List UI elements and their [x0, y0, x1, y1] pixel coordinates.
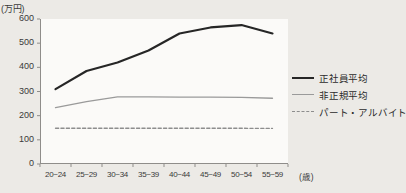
series-paths — [56, 25, 273, 128]
y-tick-label: 600 — [4, 14, 34, 23]
legend-label-nonregular: 非正規平均 — [319, 88, 368, 102]
y-axis-ticks — [37, 19, 40, 164]
legend-line-icon-regular — [292, 73, 314, 83]
series-line-正社員平均 — [56, 25, 273, 89]
y-tick-label: 200 — [4, 111, 34, 120]
y-tick-label: 400 — [4, 62, 34, 71]
x-axis-unit-label: (歳) — [299, 170, 314, 182]
x-axis-ticks — [40, 164, 288, 167]
chart-figure: (万円) 0100200300400500600 20~2425~2930~34… — [0, 0, 406, 193]
y-tick-label: 300 — [4, 87, 34, 96]
y-tick-label: 100 — [4, 135, 34, 144]
y-tick-label: 0 — [4, 159, 34, 168]
legend-item-parttime: パート・アルバイト — [292, 104, 404, 120]
legend-item-regular: 正社員平均 — [292, 70, 404, 86]
chart-legend: 正社員平均 非正規平均 パート・アルバイト — [292, 70, 404, 121]
legend-label-regular: 正社員平均 — [319, 71, 368, 85]
legend-item-nonregular: 非正規平均 — [292, 87, 404, 103]
legend-line-icon-nonregular — [292, 90, 314, 100]
x-tick-label: 55~59 — [253, 170, 293, 179]
series-line-非正規平均 — [56, 97, 273, 108]
legend-label-parttime: パート・アルバイト — [319, 105, 406, 119]
y-tick-label: 500 — [4, 38, 34, 47]
legend-line-icon-parttime — [292, 107, 314, 117]
